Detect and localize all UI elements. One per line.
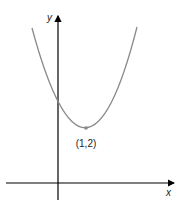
x-axis-label: x (165, 187, 172, 198)
parabola-chart: (1,2) y x (0, 0, 181, 212)
vertex-label: (1,2) (76, 138, 97, 149)
y-axis-label: y (46, 12, 53, 23)
parabola-curve (32, 27, 137, 128)
vertex-point (84, 126, 88, 130)
